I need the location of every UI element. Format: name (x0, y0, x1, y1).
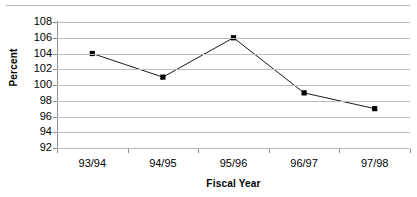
y-axis-tick-mark (53, 101, 57, 102)
top-border-rule (6, 5, 410, 6)
y-axis-tick-label: 92 (22, 142, 52, 153)
y-axis-tick-label: 108 (22, 16, 52, 27)
x-axis-tick-label: 95/96 (199, 157, 269, 169)
x-axis-tick-label: 93/94 (57, 157, 127, 169)
gridline (57, 117, 410, 118)
y-axis-tick-label: 94 (22, 126, 52, 137)
x-axis-tick-mark (128, 149, 129, 153)
y-axis-tick-label: 104 (22, 48, 52, 59)
data-point-marker (302, 90, 307, 95)
gridline (57, 85, 410, 86)
y-axis-tick-mark (53, 54, 57, 55)
y-axis-tick-label: 102 (22, 63, 52, 74)
y-axis-title: Percent (8, 38, 19, 98)
x-axis-title: Fiscal Year (57, 178, 410, 189)
data-point-marker (372, 106, 377, 111)
x-axis-tick-mark (339, 149, 340, 153)
y-axis-tick-label: 106 (22, 32, 52, 43)
gridline (57, 148, 410, 149)
gridline (57, 38, 410, 39)
y-axis-tick-mark (53, 38, 57, 39)
y-axis-tick-label: 100 (22, 79, 52, 90)
y-axis-tick-mark (53, 22, 57, 23)
gridline (57, 54, 410, 55)
x-axis-tick-mark (198, 149, 199, 153)
gridline (57, 22, 410, 23)
x-axis-tick-label: 96/97 (269, 157, 339, 169)
y-axis-tick-label: 96 (22, 111, 52, 122)
gridline (57, 101, 410, 102)
x-axis-tick-labels: 93/9494/9595/9696/9797/98 (57, 157, 410, 171)
y-axis-tick-mark (53, 132, 57, 133)
series-polyline (92, 38, 374, 109)
x-axis-tick-label: 94/95 (128, 157, 198, 169)
gridline (57, 132, 410, 133)
x-axis-tick-mark (57, 149, 58, 153)
y-axis-tick-mark (53, 117, 57, 118)
y-axis-tick-mark (53, 85, 57, 86)
x-axis-tick-mark (269, 149, 270, 153)
y-axis-tick-label: 98 (22, 95, 52, 106)
data-point-marker (160, 75, 165, 80)
line-chart: Percent 10810610410210098969492 93/9494/… (0, 0, 417, 197)
gridline (57, 69, 410, 70)
y-axis-tick-labels: 10810610410210098969492 (22, 22, 52, 148)
plot-area (57, 22, 410, 148)
y-axis-tick-mark (53, 69, 57, 70)
x-axis-tick-mark (410, 149, 411, 153)
x-axis-tick-label: 97/98 (340, 157, 410, 169)
